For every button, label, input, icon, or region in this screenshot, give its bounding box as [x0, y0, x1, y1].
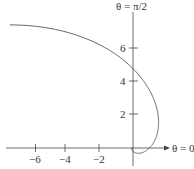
y-tick-label: 4	[120, 75, 126, 87]
x-axis-arrow-icon	[164, 146, 170, 151]
polar-axis-label: θ = 0	[172, 142, 194, 154]
x-tick-label: −2	[93, 153, 105, 165]
y-tick-label: 6	[120, 42, 126, 54]
x-tick-label: −6	[29, 153, 41, 165]
x-tick-label: −4	[59, 153, 71, 165]
y-tick-label: 2	[120, 108, 126, 120]
polar-curve	[10, 25, 159, 153]
y-ticks	[129, 48, 138, 114]
vertical-axis-label: θ = π/2	[116, 0, 147, 12]
polar-plot: −6 −4 −2 2 4 6 θ = π/2 θ = 0	[0, 0, 194, 169]
